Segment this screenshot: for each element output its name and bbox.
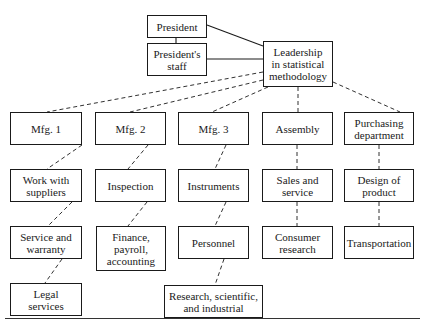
- connector-warranty-to-legal: [45, 259, 62, 283]
- node-research: Research, scientific, and industrial: [164, 285, 263, 318]
- bottom-rule: [5, 318, 420, 319]
- node-mfg-1: Mfg. 1: [10, 112, 82, 145]
- node-legal-services: Legal services: [10, 283, 82, 316]
- connector-personnel-to-research: [215, 259, 224, 285]
- connector-suppliers-to-warranty: [48, 202, 72, 226]
- node-work-with-suppliers: Work with suppliers: [10, 169, 82, 202]
- node-mfg-2: Mfg. 2: [95, 112, 166, 145]
- connector-inspection-to-finance: [128, 202, 147, 226]
- connector-president-to-leadership: [207, 25, 263, 46]
- node-inspection: Inspection: [95, 169, 166, 202]
- connector-mfg2-to-inspection: [128, 145, 148, 169]
- node-leadership: Leadership in statistical methodology: [263, 41, 333, 87]
- connector-leadership-to-mfg2: [130, 80, 263, 112]
- node-personnel: Personnel: [178, 226, 249, 259]
- node-service-and-warranty: Service and warranty: [10, 226, 82, 259]
- connector-leadership-to-purchasing: [333, 82, 400, 112]
- node-transportation: Transportation: [344, 226, 414, 259]
- connector-leadership-to-mfg3: [212, 87, 268, 112]
- connector-instruments-to-personnel: [215, 202, 226, 226]
- node-mfg-3: Mfg. 3: [178, 112, 249, 145]
- connector-mfg1-to-suppliers: [47, 145, 82, 169]
- node-presidents-staff: President's staff: [147, 43, 207, 76]
- node-sales-and-service: Sales and service: [262, 169, 333, 202]
- connector-leadership-to-mfg1: [47, 72, 263, 112]
- node-purchasing: Purchasing department: [344, 112, 414, 145]
- node-finance: Finance, payroll, accounting: [96, 226, 166, 271]
- node-consumer-research: Consumer research: [262, 226, 333, 259]
- node-president: President: [147, 15, 207, 38]
- connector-layer: [0, 0, 425, 324]
- node-instruments: Instruments: [178, 169, 249, 202]
- connector-mfg3-to-instruments: [215, 145, 226, 169]
- node-assembly: Assembly: [262, 112, 333, 145]
- org-chart: President President's staff Leadership i…: [0, 0, 425, 324]
- node-design-of-product: Design of product: [344, 169, 414, 202]
